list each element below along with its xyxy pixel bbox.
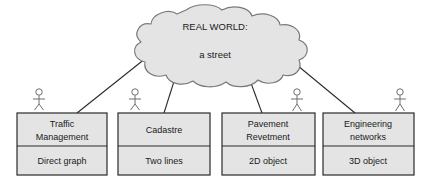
node-header-line2: networks bbox=[350, 132, 387, 142]
actor-stick-figure-icon bbox=[33, 89, 45, 110]
node-body: Direct graph bbox=[37, 156, 86, 166]
cloud-shape bbox=[135, 5, 308, 87]
cloud-label-line1: REAL WORLD: bbox=[182, 21, 247, 32]
node-body: 3D object bbox=[349, 156, 388, 166]
cloud-label-line2: a street bbox=[199, 49, 231, 60]
node-header-line2: Management bbox=[36, 132, 89, 142]
node-header-line1: Traffic bbox=[50, 119, 75, 129]
uml-context-diagram: REAL WORLD: a street bbox=[0, 0, 431, 190]
node-header-line1: Engineering bbox=[344, 119, 392, 129]
actor-stick-figure-icon bbox=[129, 89, 141, 110]
diagram-canvas: REAL WORLD: a street bbox=[0, 0, 431, 190]
node-body: 2D object bbox=[249, 156, 288, 166]
node-header-line2: Revetment bbox=[246, 132, 290, 142]
node-header-line1: Cadastre bbox=[146, 125, 183, 135]
actor-stick-figure-icon bbox=[291, 89, 303, 111]
real-world-cloud: REAL WORLD: a street bbox=[135, 5, 308, 87]
node-traffic-management[interactable]: Traffic Management Direct graph bbox=[17, 113, 107, 175]
actor-stick-figure-icon bbox=[394, 89, 406, 111]
node-body: Two lines bbox=[145, 156, 183, 166]
node-pavement-revetment[interactable]: Pavement Revetment 2D object bbox=[222, 113, 315, 175]
node-header-line1: Pavement bbox=[248, 119, 289, 129]
node-cadastre[interactable]: Cadastre Two lines bbox=[118, 113, 210, 175]
node-engineering-networks[interactable]: Engineering networks 3D object bbox=[323, 113, 414, 175]
